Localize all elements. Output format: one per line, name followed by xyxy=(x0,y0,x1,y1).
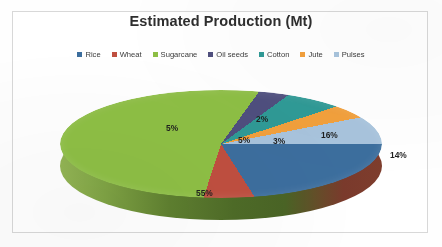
pie-chart-area: 16%14%55%5%5%2%3% xyxy=(0,62,442,222)
legend-item-rice[interactable]: Rice xyxy=(77,50,100,59)
legend-item-label: Wheat xyxy=(120,50,142,59)
legend-item-label: Sugarcane xyxy=(161,50,198,59)
legend-item-jute[interactable]: Jute xyxy=(300,50,322,59)
slice-percent-label: 5% xyxy=(238,135,250,145)
legend-swatch-icon xyxy=(153,52,158,57)
chart-legend: RiceWheatSugarcaneOil seedsCottonJutePul… xyxy=(0,50,442,59)
chart-image: Estimated Production (Mt) RiceWheatSugar… xyxy=(0,0,442,247)
pie-slices xyxy=(60,90,382,198)
legend-item-cotton[interactable]: Cotton xyxy=(259,50,289,59)
slice-percent-label: 2% xyxy=(256,114,268,124)
legend-swatch-icon xyxy=(259,52,264,57)
legend-item-sugarcane[interactable]: Sugarcane xyxy=(153,50,198,59)
legend-item-label: Cotton xyxy=(267,50,289,59)
legend-item-oil-seeds[interactable]: Oil seeds xyxy=(208,50,248,59)
legend-item-label: Rice xyxy=(85,50,100,59)
legend-swatch-icon xyxy=(77,52,82,57)
legend-swatch-icon xyxy=(112,52,117,57)
legend-item-label: Pulses xyxy=(342,50,365,59)
pie-3d: 16%14%55%5%5%2%3% xyxy=(60,90,382,222)
pie-top-face xyxy=(60,90,382,198)
legend-swatch-icon xyxy=(300,52,305,57)
slice-percent-label: 3% xyxy=(273,136,285,146)
legend-swatch-icon xyxy=(334,52,339,57)
slice-percent-label: 16% xyxy=(321,130,338,140)
legend-item-wheat[interactable]: Wheat xyxy=(112,50,142,59)
chart-title: Estimated Production (Mt) xyxy=(0,13,442,29)
slice-percent-label: 14% xyxy=(390,150,407,160)
legend-item-label: Jute xyxy=(308,50,322,59)
slice-percent-label: 5% xyxy=(166,123,178,133)
legend-swatch-icon xyxy=(208,52,213,57)
legend-item-label: Oil seeds xyxy=(216,50,248,59)
legend-item-pulses[interactable]: Pulses xyxy=(334,50,365,59)
slice-percent-label: 55% xyxy=(196,188,213,198)
